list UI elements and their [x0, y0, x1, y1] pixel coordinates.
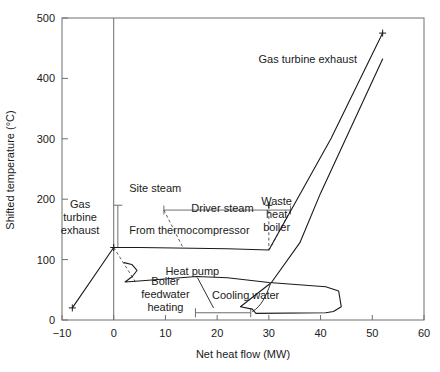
chart-svg: −1001020304050600100200300400500 Gasturb… [0, 0, 440, 372]
y-tick-label: 400 [37, 72, 55, 84]
annotation-site-steam: Site steam [129, 182, 181, 194]
x-tick-label: −10 [53, 327, 72, 339]
x-tick-label: 20 [211, 327, 223, 339]
x-tick-label: 10 [159, 327, 171, 339]
x-tick-label: 30 [263, 327, 275, 339]
x-axis-title: Net heat flow (MW) [196, 348, 290, 360]
y-axis-title: Shifted temperature (°C) [4, 110, 16, 229]
x-tick-label: 0 [111, 327, 117, 339]
y-tick-label: 0 [49, 314, 55, 326]
x-tick-label: 50 [366, 327, 378, 339]
y-tick-label: 500 [37, 12, 55, 24]
annotation-gas-turbine-exhaust-right: Gas turbine exhaust [259, 53, 357, 65]
y-tick-label: 100 [37, 254, 55, 266]
y-tick-label: 200 [37, 193, 55, 205]
annotation-driver-steam: Driver steam [191, 202, 253, 214]
chart-background [0, 0, 440, 372]
x-tick-label: 40 [314, 327, 326, 339]
composite-curves-chart: −1001020304050600100200300400500 Gasturb… [0, 0, 440, 372]
annotation-from-thermocompressor: From thermocompressor [129, 224, 250, 236]
y-tick-label: 300 [37, 133, 55, 145]
x-tick-label: 60 [418, 327, 430, 339]
annotation-cooling-water: Cooling water [212, 289, 280, 301]
